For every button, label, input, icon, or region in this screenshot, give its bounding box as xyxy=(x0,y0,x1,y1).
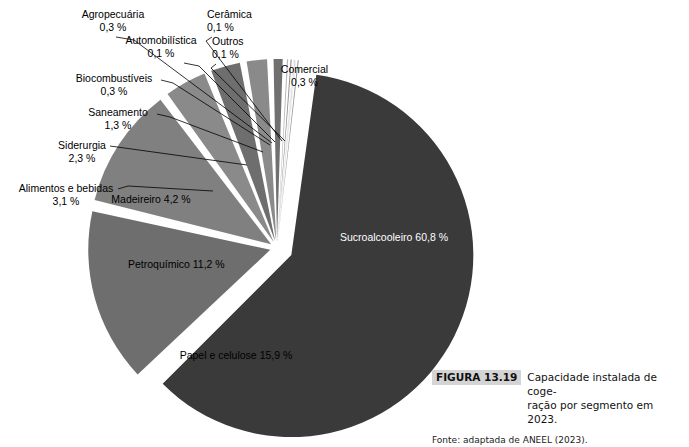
callout-value-comercial: 0,3 % xyxy=(252,76,357,89)
callout-label-alimentos-e-bebidas: Alimentos e bebidas xyxy=(8,182,124,195)
callout-saneamento: Saneamento 1,3 % xyxy=(74,106,162,131)
callout-value-saneamento: 1,3 % xyxy=(74,119,162,132)
slice-label-text-papel-e-celulose: Papel e celulose xyxy=(180,349,257,361)
callout-value-ceramica: 0,1 % xyxy=(207,21,287,34)
callout-label-siderurgia: Siderurgia xyxy=(46,139,118,152)
slice-label-papel-e-celulose: Papel e celulose 15,9 % xyxy=(176,349,296,362)
slice-label-madeireiro: Madeireiro 4,2 % xyxy=(108,193,194,206)
slice-label-value-papel-e-celulose: 15,9 % xyxy=(260,349,293,361)
slice-label-sucroalcooleiro: Sucroalcooleiro 60,8 % xyxy=(333,231,455,244)
callout-automobilistica: Automobilística 0,1 % xyxy=(107,34,215,59)
caption-line-1: Capacidade instalada de coge- xyxy=(527,371,657,397)
callout-value-alimentos-e-bebidas: 3,1 % xyxy=(8,195,124,208)
callout-label-comercial: Comercial xyxy=(252,63,357,76)
callout-comercial: Comercial 0,3 % xyxy=(252,63,357,88)
slice-label-value-petroquimico: 11,2 % xyxy=(193,258,225,270)
callout-label-biocombustiveis: Biocombustíveis xyxy=(62,72,166,85)
callout-label-automobilistica: Automobilística xyxy=(107,34,215,47)
slice-label-value-sucroalcooleiro: 60,8 % xyxy=(415,231,448,243)
callout-label-ceramica: Cerâmica xyxy=(207,8,287,21)
callout-label-outros: Outros xyxy=(212,35,292,48)
callout-alimentos-e-bebidas: Alimentos e bebidas 3,1 % xyxy=(8,182,124,207)
caption-line-2: ração por segmento em 2023. xyxy=(527,398,682,426)
slice-label-text-petroquimico: Petroquímico xyxy=(128,258,190,270)
slice-label-petroquimico: Petroquímico 11,2 % xyxy=(128,258,224,271)
callout-value-automobilistica: 0,1 % xyxy=(107,47,215,60)
slice-label-text-madeireiro: Madeireiro xyxy=(111,193,161,205)
callout-value-outros: 0,1 % xyxy=(212,48,292,61)
callout-siderurgia: Siderurgia 2,3 % xyxy=(46,139,118,164)
callout-value-agropecuaria: 0,3 % xyxy=(58,21,168,34)
figure-number-badge: FIGURA 13.19 xyxy=(432,370,521,385)
caption-source: Fonte: adaptada de ANEEL (2023). xyxy=(432,434,682,446)
callout-outros: Outros 0,1 % xyxy=(212,35,292,60)
callout-biocombustiveis: Biocombustíveis 0,3 % xyxy=(62,72,166,97)
callout-agropecuaria: Agropecuária 0,3 % xyxy=(58,8,168,33)
callout-value-biocombustiveis: 0,3 % xyxy=(62,85,166,98)
slice-label-value-madeireiro: 4,2 % xyxy=(164,193,191,205)
callout-label-saneamento: Saneamento xyxy=(74,106,162,119)
callout-value-siderurgia: 2,3 % xyxy=(46,152,118,165)
callout-label-agropecuaria: Agropecuária xyxy=(58,8,168,21)
slice-label-text-sucroalcooleiro: Sucroalcooleiro xyxy=(340,231,412,243)
callout-ceramica: Cerâmica 0,1 % xyxy=(207,8,287,33)
figure-cogeneration-pie: Agropecuária 0,3 % Automobilística 0,1 %… xyxy=(0,0,689,447)
figure-caption: FIGURA 13.19 Capacidade instalada de cog… xyxy=(432,370,682,446)
